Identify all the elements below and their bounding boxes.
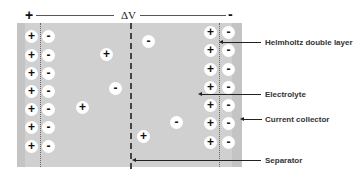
anion: - [42, 103, 55, 116]
anion: - [42, 30, 55, 43]
cation: + [204, 136, 217, 149]
cation: + [204, 81, 217, 94]
anion: - [222, 44, 235, 57]
anion: - [222, 117, 235, 130]
anion: - [42, 140, 55, 153]
cation: + [25, 103, 38, 116]
positive-terminal-sign: + [25, 8, 33, 22]
cation: + [25, 121, 38, 134]
cation: + [25, 67, 38, 80]
voltage-line-left [36, 15, 114, 16]
anion: - [222, 81, 235, 94]
arrow-current-collector [244, 119, 262, 120]
anion: - [109, 82, 122, 95]
current-collector-left [17, 23, 25, 167]
cation: + [137, 130, 150, 143]
cation: + [204, 99, 217, 112]
anion: - [142, 35, 155, 48]
anion: - [222, 26, 235, 39]
arrow-helmholtz [223, 42, 261, 43]
cation: + [25, 140, 38, 153]
anion: - [222, 136, 235, 149]
anion: - [42, 49, 55, 62]
anion: - [42, 121, 55, 134]
label-current-collector: Current collector [265, 115, 329, 124]
cation: + [25, 49, 38, 62]
anion: - [170, 116, 183, 129]
cation: + [25, 85, 38, 98]
cation: + [25, 30, 38, 43]
voltage-line-right [140, 15, 226, 16]
helmholtz-boundary-left [40, 23, 41, 167]
label-separator: Separator [265, 156, 302, 165]
arrow-electrolyte [202, 94, 261, 95]
anion: - [222, 99, 235, 112]
anion: - [222, 63, 235, 76]
label-electrolyte: Electrolyte [265, 90, 306, 99]
negative-terminal-sign: - [228, 7, 233, 21]
arrow-separator [136, 160, 261, 161]
separator-line [130, 23, 132, 169]
anion: - [42, 67, 55, 80]
cation: + [204, 117, 217, 130]
cation: + [100, 48, 113, 61]
helmholtz-boundary-right [219, 23, 220, 167]
cation: + [204, 63, 217, 76]
delta-v-label: ΔV [121, 9, 136, 21]
cation: + [76, 101, 89, 114]
cation: + [204, 44, 217, 57]
anion: - [42, 85, 55, 98]
label-helmholtz-double-layer: Helmholtz double layer [265, 38, 353, 47]
cation: + [204, 26, 217, 39]
